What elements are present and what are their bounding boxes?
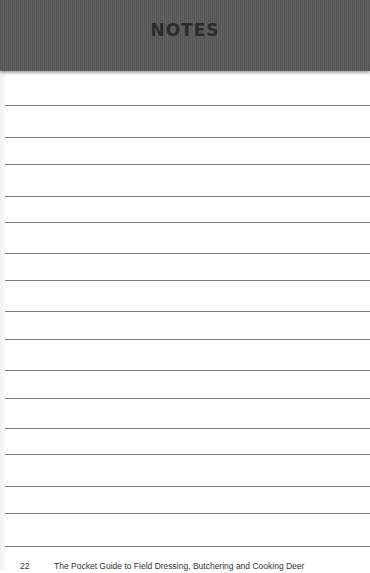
ruled-line bbox=[5, 196, 370, 197]
ruled-line bbox=[5, 339, 370, 340]
ruled-line bbox=[5, 105, 370, 106]
running-footer-title: The Pocket Guide to Field Dressing, Butc… bbox=[54, 561, 304, 571]
ruled-line bbox=[5, 137, 370, 138]
page-title: NOTES bbox=[0, 20, 370, 40]
page-footer: 22 The Pocket Guide to Field Dressing, B… bbox=[0, 561, 370, 573]
ruled-line bbox=[5, 513, 370, 514]
ruled-line bbox=[5, 280, 370, 281]
ruled-line bbox=[5, 546, 370, 547]
ruled-line bbox=[5, 222, 370, 223]
ruled-line bbox=[5, 253, 370, 254]
notes-header-band: NOTES bbox=[0, 0, 370, 71]
ruled-line bbox=[5, 428, 370, 429]
ruled-line bbox=[5, 398, 370, 399]
binding-shadow bbox=[0, 71, 8, 570]
ruled-line bbox=[5, 164, 370, 165]
page-number: 22 bbox=[20, 561, 29, 571]
ruled-line bbox=[5, 454, 370, 455]
ruled-line bbox=[5, 370, 370, 371]
ruled-line bbox=[5, 311, 370, 312]
ruled-line bbox=[5, 486, 370, 487]
